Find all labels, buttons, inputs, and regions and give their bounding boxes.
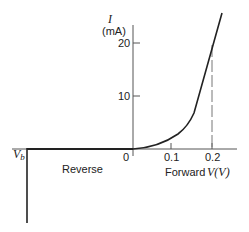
reverse-label: Reverse bbox=[62, 163, 103, 175]
y-tick-label-10: 10 bbox=[118, 90, 130, 102]
y-tick-label-20: 20 bbox=[118, 37, 130, 49]
forward-label: Forward bbox=[165, 166, 205, 178]
y-axis-symbol: I bbox=[107, 12, 113, 26]
x-axis-label: V(V) bbox=[207, 165, 230, 179]
forward-curve bbox=[133, 13, 222, 149]
x-tick-label-0.1: 0.1 bbox=[164, 151, 179, 163]
y-axis-unit: (mA) bbox=[102, 25, 126, 37]
x-tick-label-0: 0 bbox=[123, 151, 129, 163]
x-tick-label-0.2: 0.2 bbox=[205, 151, 220, 163]
diode-iv-diagram: I (mA) 20 10 0 0.1 0.2 V(V) Reverse Forw… bbox=[0, 0, 249, 232]
